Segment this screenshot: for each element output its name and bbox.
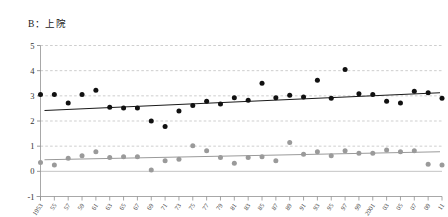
data-point — [163, 158, 168, 163]
data-point — [204, 148, 209, 153]
x-axis-tick-label: 67 — [131, 201, 141, 211]
data-point — [38, 160, 43, 165]
data-point — [260, 81, 265, 86]
x-axis-tick-label: 69 — [145, 202, 154, 211]
y-axis-tick-label: 1 — [30, 141, 34, 151]
x-axis-tick-label: 07 — [408, 201, 418, 211]
data-point — [412, 89, 417, 94]
x-axis-tick-label: 75 — [187, 202, 196, 211]
data-point — [80, 153, 85, 158]
data-point — [384, 147, 389, 152]
y-axis-tick-label: 3 — [30, 91, 34, 101]
x-axis-tick-label: 61 — [90, 202, 99, 211]
x-axis-tick-label: 55 — [48, 202, 57, 211]
data-point — [149, 168, 154, 173]
scatter-plot: 543210-119535557596163656769717375777981… — [0, 0, 448, 217]
x-axis-tick-label: 05 — [394, 202, 403, 211]
black-trendline — [45, 93, 441, 111]
data-point — [287, 140, 292, 145]
data-point — [176, 157, 181, 162]
x-axis-tick-label: 71 — [159, 202, 168, 211]
x-axis-tick-label: 09 — [422, 202, 431, 211]
x-axis-tick-label: 81 — [228, 202, 237, 211]
data-point — [66, 156, 71, 161]
data-point — [343, 148, 348, 153]
y-axis-tick-label: 5 — [30, 41, 34, 51]
data-point — [52, 163, 57, 168]
data-point — [329, 153, 334, 158]
data-point — [176, 108, 181, 113]
data-point — [218, 155, 223, 160]
x-axis-tick-label: 89 — [284, 202, 293, 211]
data-point — [384, 99, 389, 104]
data-point — [260, 154, 265, 159]
data-point — [107, 105, 112, 110]
x-axis-tick-label: 99 — [353, 202, 362, 211]
data-point — [80, 92, 85, 97]
x-axis-tick-label: 63 — [104, 202, 113, 211]
x-axis-tick-label: 85 — [256, 202, 265, 211]
data-point — [370, 151, 375, 156]
x-axis-tick-label: 87 — [270, 201, 280, 211]
x-axis-tick-label: 57 — [62, 201, 72, 211]
data-point — [273, 158, 278, 163]
x-axis-tick-label: 93 — [311, 202, 320, 211]
x-axis-tick-label: 97 — [339, 201, 349, 211]
data-point — [135, 105, 140, 110]
data-point — [204, 99, 209, 104]
data-point — [356, 151, 361, 156]
y-axis-tick-label: -1 — [27, 192, 34, 202]
data-point — [426, 162, 431, 167]
x-axis-tick-label: 1953 — [31, 202, 44, 216]
data-point — [93, 149, 98, 154]
x-axis-tick-label: 91 — [297, 202, 306, 211]
data-point — [370, 92, 375, 97]
data-point — [440, 163, 445, 168]
x-axis-tick-label: 95 — [325, 202, 334, 211]
data-point — [246, 155, 251, 160]
data-point — [232, 161, 237, 166]
y-axis-tick-label: 0 — [30, 166, 34, 176]
data-point — [107, 155, 112, 160]
data-point — [246, 98, 251, 103]
data-point — [121, 105, 126, 110]
data-point — [356, 91, 361, 96]
data-point — [343, 67, 348, 72]
x-axis-tick-label: 2001 — [363, 202, 376, 216]
x-axis-tick-label: 11 — [436, 202, 445, 211]
data-point — [301, 95, 306, 100]
data-point — [93, 88, 98, 93]
x-axis-tick-label: 59 — [76, 202, 85, 211]
x-axis-tick-label: 79 — [214, 202, 223, 211]
y-axis-tick-label: 2 — [30, 116, 34, 126]
data-point — [440, 96, 445, 101]
data-point — [52, 92, 57, 97]
data-point — [135, 154, 140, 159]
data-point — [315, 78, 320, 83]
data-point — [38, 92, 43, 97]
x-axis-tick-label: 03 — [381, 202, 390, 211]
data-point — [412, 148, 417, 153]
data-point — [398, 149, 403, 154]
data-point — [121, 154, 126, 159]
data-point — [66, 100, 71, 105]
data-point — [287, 93, 292, 98]
data-point — [190, 143, 195, 148]
data-point — [426, 90, 431, 95]
data-point — [273, 95, 278, 100]
data-point — [398, 100, 403, 105]
data-point — [149, 119, 154, 124]
data-point — [190, 103, 195, 108]
chart-container: B：上院 543210-1195355575961636567697173757… — [0, 0, 448, 217]
data-point — [315, 149, 320, 154]
gray-trendline — [45, 152, 441, 160]
y-axis-tick-label: 4 — [30, 66, 35, 76]
x-axis-tick-label: 73 — [173, 202, 182, 211]
data-point — [329, 96, 334, 101]
x-axis-tick-label: 83 — [242, 202, 251, 211]
data-point — [232, 95, 237, 100]
data-point — [218, 101, 223, 106]
data-point — [163, 124, 168, 129]
data-point — [301, 152, 306, 157]
x-axis-tick-label: 77 — [201, 201, 211, 211]
